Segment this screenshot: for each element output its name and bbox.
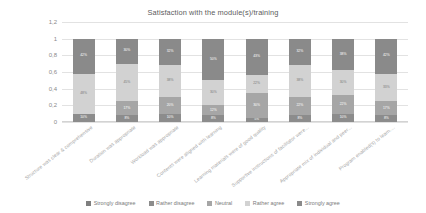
- legend-swatch-icon: [207, 201, 212, 206]
- x-axis-category-label: Supportive instructions of facilitator w…: [230, 124, 310, 188]
- y-axis-tick-label: 1,2: [49, 19, 57, 25]
- bar-segment: 48%: [73, 74, 95, 114]
- bar-column[interactable]: 30%45%17%8%: [109, 22, 145, 122]
- bar-column[interactable]: 50%30%12%8%: [195, 22, 231, 122]
- legend-item[interactable]: Rather disagree: [149, 200, 195, 206]
- bar-segment: 22%: [289, 97, 311, 115]
- y-axis-tick-label: 0,8: [49, 52, 57, 58]
- bar-segment: 30%: [202, 80, 224, 105]
- bar-segment: 17%: [116, 101, 138, 115]
- x-axis-category-label: Learning materials were of good quality: [192, 124, 266, 184]
- legend-label: Rather disagree: [156, 200, 194, 206]
- bar-segment: 38%: [289, 65, 311, 97]
- x-axis-category-label: Duration was appropriate: [88, 124, 137, 164]
- bar-series-group: 42%48%10%30%45%17%8%32%38%20%10%50%30%12…: [62, 22, 408, 122]
- bar-segment: 8%: [375, 115, 397, 122]
- bar-segment: 8%: [116, 115, 138, 122]
- stacked-bar[interactable]: 32%38%22%8%: [289, 39, 311, 122]
- bar-segment: 42%: [73, 39, 95, 74]
- bar-column[interactable]: 38%30%22%10%: [325, 22, 361, 122]
- bar-column[interactable]: 42%33%17%8%: [368, 22, 404, 122]
- bar-segment: 17%: [375, 101, 397, 115]
- bar-segment: 22%: [246, 75, 268, 93]
- plot-area: 1,210,80,60,40,20 42%48%10%30%45%17%8%32…: [62, 22, 408, 122]
- bar-segment: 8%: [202, 115, 224, 122]
- legend-label: Neutral: [215, 200, 232, 206]
- stacked-bar[interactable]: 32%38%20%10%: [159, 39, 181, 122]
- legend-label: Strongly disagree: [94, 200, 136, 206]
- bar-column[interactable]: 32%38%22%8%: [282, 22, 318, 122]
- x-axis-category-label: Structure was clear & comprehensive: [23, 124, 93, 181]
- bar-segment: 10%: [159, 114, 181, 122]
- chart-legend: Strongly disagreeRather disagreeNeutralR…: [0, 200, 426, 206]
- stacked-bar[interactable]: 50%30%12%8%: [202, 39, 224, 122]
- legend-item[interactable]: Neutral: [207, 200, 232, 206]
- chart-title: Satisfaction with the module(s)/training: [0, 8, 426, 17]
- stacked-bar[interactable]: 42%48%10%: [73, 39, 95, 122]
- stacked-bar[interactable]: 30%45%17%8%: [116, 39, 138, 122]
- x-axis-labels: Structure was clear & comprehensiveDurat…: [62, 124, 408, 180]
- stacked-bar[interactable]: 43%22%30%5%: [246, 39, 268, 122]
- chart-container: Satisfaction with the module(s)/training…: [0, 0, 426, 213]
- bar-segment: 20%: [159, 97, 181, 114]
- bar-segment: 32%: [289, 39, 311, 66]
- bar-segment: 8%: [289, 115, 311, 122]
- bar-segment: 50%: [202, 39, 224, 81]
- bar-column[interactable]: 32%38%20%10%: [152, 22, 188, 122]
- legend-swatch-icon: [297, 201, 302, 206]
- y-axis-tick-label: 0: [54, 119, 57, 125]
- gridline: [62, 122, 408, 123]
- bar-segment: 32%: [159, 39, 181, 66]
- legend-item[interactable]: Strongly disagree: [86, 200, 135, 206]
- y-axis-tick-label: 0,6: [49, 69, 57, 75]
- legend-label: Rather agree: [253, 200, 284, 206]
- bar-segment: 30%: [116, 39, 138, 64]
- bar-segment: 30%: [246, 93, 268, 118]
- bar-segment: 33%: [375, 74, 397, 102]
- bar-segment: 45%: [116, 64, 138, 102]
- legend-item[interactable]: Strongly agree: [297, 200, 340, 206]
- stacked-bar[interactable]: 42%33%17%8%: [375, 39, 397, 122]
- y-axis-tick-label: 0,2: [49, 102, 57, 108]
- bar-column[interactable]: 42%48%10%: [66, 22, 102, 122]
- legend-swatch-icon: [245, 201, 250, 206]
- y-axis-tick-label: 1: [54, 36, 57, 42]
- bar-segment: 12%: [202, 105, 224, 115]
- y-axis-tick-label: 0,4: [49, 86, 57, 92]
- bar-segment: 42%: [375, 39, 397, 74]
- bar-segment: 38%: [159, 65, 181, 97]
- legend-label: Strongly agree: [305, 200, 340, 206]
- bar-segment: 43%: [246, 39, 268, 75]
- bar-segment: 10%: [332, 114, 354, 122]
- bar-segment: 30%: [332, 70, 354, 95]
- legend-swatch-icon: [86, 201, 91, 206]
- bar-segment: 38%: [332, 39, 354, 71]
- x-axis-category-label: Appropriate mix of individual and peer..…: [278, 124, 353, 184]
- bar-segment: 10%: [73, 114, 95, 122]
- bar-column[interactable]: 43%22%30%5%: [239, 22, 275, 122]
- legend-swatch-icon: [149, 201, 154, 206]
- legend-item[interactable]: Rather agree: [245, 200, 284, 206]
- bar-segment: 5%: [246, 118, 268, 122]
- stacked-bar[interactable]: 38%30%22%10%: [332, 39, 354, 122]
- bar-segment: 22%: [332, 95, 354, 113]
